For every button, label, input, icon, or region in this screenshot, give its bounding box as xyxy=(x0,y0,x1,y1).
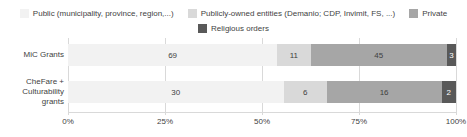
tick-mark-50pct xyxy=(262,112,263,115)
bar-segment-value: 30 xyxy=(171,88,180,97)
legend-swatch-private xyxy=(409,9,418,18)
tick-label-50pct: 50% xyxy=(254,117,270,127)
legend-label-private: Private xyxy=(422,9,447,18)
bar-segment-value: 6 xyxy=(303,88,307,97)
tick-mark-0pct xyxy=(68,112,69,115)
bar-row: 306162 xyxy=(68,81,456,103)
legend-item-private[interactable]: Private xyxy=(409,9,447,18)
bar-segment[interactable]: 45 xyxy=(311,44,447,66)
legend-label-religious-orders: Religious orders xyxy=(211,24,269,33)
bar-series-container: 6911453306162 xyxy=(68,38,456,112)
legend-item-publicly-owned-entities[interactable]: Publicly-owned entities (Demanio; CDP, I… xyxy=(188,9,396,18)
legend-row-primary: Public (municipality, province, region,.… xyxy=(0,6,467,21)
category-label-chefare-culturability-grants: CheFare + Culturability grants xyxy=(0,77,64,107)
x-axis-ticks: 0%25%50%75%100% xyxy=(68,112,456,132)
bar-segment[interactable]: 16 xyxy=(327,81,442,103)
bar-segment-value: 16 xyxy=(380,88,389,97)
bar-segment[interactable]: 3 xyxy=(447,44,456,66)
bar-segment-value: 69 xyxy=(168,51,177,60)
legend-item-public[interactable]: Public (municipality, province, region,.… xyxy=(20,9,174,18)
tick-label-75pct: 75% xyxy=(351,117,367,127)
tick-mark-100pct xyxy=(456,112,457,115)
bar-segment-value: 45 xyxy=(374,51,383,60)
legend-label-publicly-owned-entities: Publicly-owned entities (Demanio; CDP, I… xyxy=(201,9,396,18)
plot-area: 6911453306162 xyxy=(68,38,456,112)
bar-segment-value: 11 xyxy=(290,51,298,60)
tick-mark-75pct xyxy=(359,112,360,115)
tick-mark-25pct xyxy=(165,112,166,115)
tick-label-0pct: 0% xyxy=(62,117,74,127)
legend-label-public: Public (municipality, province, region,.… xyxy=(33,9,174,18)
legend-swatch-religious-orders xyxy=(198,24,207,33)
category-label-mic-grants: MiC Grants xyxy=(0,50,64,60)
stacked-bar-chart: Public (municipality, province, region,.… xyxy=(0,0,467,137)
legend-swatch-public xyxy=(20,9,29,18)
bar-segment[interactable]: 11 xyxy=(277,44,310,66)
bar-segment[interactable]: 6 xyxy=(284,81,327,103)
legend-swatch-publicly-owned-entities xyxy=(188,9,197,18)
category-axis-labels: MiC Grants CheFare + Culturability grant… xyxy=(0,38,64,112)
bar-row: 6911453 xyxy=(68,44,456,66)
bar-segment[interactable]: 30 xyxy=(68,81,284,103)
bar-segment[interactable]: 2 xyxy=(442,81,456,103)
tick-label-25pct: 25% xyxy=(157,117,173,127)
bar-segment[interactable]: 69 xyxy=(68,44,277,66)
legend-row-secondary: Religious orders xyxy=(0,21,467,36)
tick-label-100pct: 100% xyxy=(446,117,466,127)
bar-segment-value: 2 xyxy=(447,88,451,97)
legend-item-religious-orders[interactable]: Religious orders xyxy=(198,24,269,33)
chart-legend: Public (municipality, province, region,.… xyxy=(0,6,467,36)
bar-segment-value: 3 xyxy=(449,51,453,60)
